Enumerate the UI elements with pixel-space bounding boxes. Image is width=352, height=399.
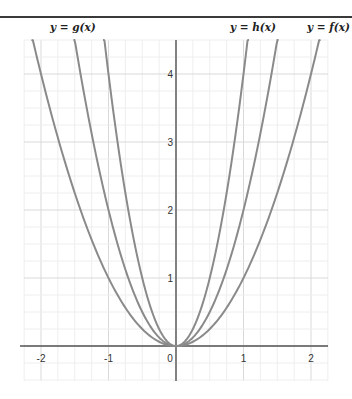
x-tick-label: 2 [308,353,314,364]
y-tick-label: 4 [167,69,173,80]
x-tick-label: -1 [104,353,113,364]
label-h: y = h(x) [230,21,276,33]
label-g: y = g(x) [50,21,96,33]
y-tick-label: 3 [167,137,173,148]
x-tick-label: -2 [37,353,46,364]
y-tick-label: 1 [167,273,173,284]
label-f: y = f(x) [307,21,350,33]
x-tick-label: 0 [167,353,173,364]
plot-area: -2-10121234 [0,0,352,399]
y-tick-label: 2 [167,205,173,216]
x-tick-label: 1 [241,353,247,364]
